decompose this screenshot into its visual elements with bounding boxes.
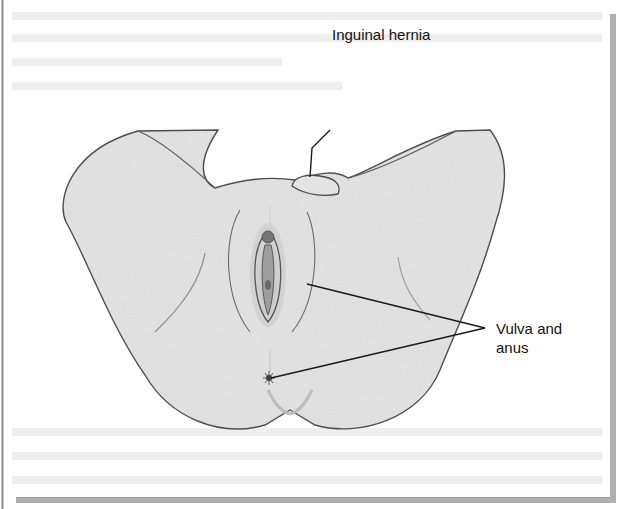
figure-frame: Inguinal hernia Vulva and anus	[0, 0, 627, 509]
perineum-illustration	[0, 0, 627, 509]
clitoris	[262, 231, 274, 243]
label-vulva-and-anus: Vulva and anus	[496, 319, 562, 357]
label-vulva-line2: anus	[496, 338, 562, 357]
hernia-leader	[310, 130, 330, 177]
label-inguinal-hernia: Inguinal hernia	[332, 25, 430, 44]
label-vulva-line1: Vulva and	[496, 319, 562, 338]
frame-bottom-shadow	[16, 498, 616, 503]
frame-right-shadow	[610, 14, 616, 502]
